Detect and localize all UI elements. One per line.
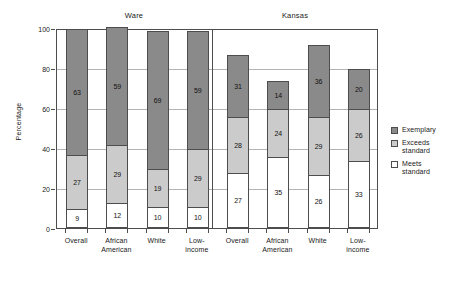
- y-axis-tick-mark: [51, 189, 55, 190]
- bar-segment: 10: [187, 207, 209, 228]
- x-axis-tick-mark: [87, 229, 88, 233]
- bar-value-label: 26: [315, 198, 323, 205]
- x-axis-tick-mark: [347, 229, 348, 233]
- y-axis-tick-label: 40: [24, 146, 50, 153]
- y-axis-tick-mark: [51, 229, 55, 230]
- plot-area: 6327959291269191059291031282714243536292…: [56, 29, 378, 229]
- bar-value-label: 12: [113, 212, 121, 219]
- bar-value-label: 19: [154, 185, 162, 192]
- bar-stack: 142435: [267, 81, 289, 228]
- bar-stack: 202633: [348, 69, 370, 228]
- bar-value-label: 29: [113, 171, 121, 178]
- y-axis-tick-label: 20: [24, 186, 50, 193]
- bar-segment: 29: [308, 117, 330, 176]
- x-axis-tick-mark: [248, 229, 249, 233]
- bar-segment: 19: [147, 169, 169, 208]
- x-axis-category-line2: income: [169, 245, 225, 254]
- bar-value-label: 63: [73, 89, 81, 96]
- y-axis-tick-mark: [51, 149, 55, 150]
- bar-value-label: 29: [315, 143, 323, 150]
- y-axis-tick-label: 60: [24, 106, 50, 113]
- x-axis-tick-mark: [208, 229, 209, 233]
- bar-segment: 69: [147, 31, 169, 170]
- x-axis-tick-mark: [65, 229, 66, 233]
- bar-value-label: 20: [355, 86, 363, 93]
- bar-segment: 31: [227, 55, 249, 118]
- x-axis-category-line2: income: [330, 245, 386, 254]
- legend-label-meets-line1: Meets: [402, 160, 422, 167]
- bar-value-label: 31: [234, 83, 242, 90]
- bar-value-label: 27: [73, 179, 81, 186]
- bar-segment: 33: [348, 161, 370, 228]
- bar-value-label: 33: [355, 191, 363, 198]
- x-axis-tick-mark: [369, 229, 370, 233]
- y-axis-ticks: 020406080100: [20, 0, 50, 283]
- bar-value-label: 69: [154, 97, 162, 104]
- bar-segment: 10: [147, 207, 169, 228]
- legend-label-meets-line2: standard: [402, 168, 430, 175]
- bar-segment: 14: [267, 81, 289, 110]
- bar-value-label: 59: [194, 87, 202, 94]
- bar-value-label: 27: [234, 197, 242, 204]
- bar-segment: 26: [308, 175, 330, 228]
- y-axis-tick-mark: [51, 109, 55, 110]
- bar-segment: 9: [66, 209, 88, 228]
- bar-stack: 312827: [227, 55, 249, 228]
- bar-segment: 27: [66, 155, 88, 210]
- bar-segment: 36: [308, 45, 330, 118]
- x-axis-tick-mark: [307, 229, 308, 233]
- x-axis-tick-mark: [186, 229, 187, 233]
- legend-label-exceeds-line1: Exceeds: [402, 139, 430, 146]
- bar-value-label: 59: [113, 83, 121, 90]
- legend-item-meets-standard: Meets standard: [391, 160, 455, 177]
- y-axis-tick-mark: [51, 69, 55, 70]
- legend-label-meets-standard: Meets standard: [402, 160, 430, 177]
- x-axis-category-line2: American: [88, 245, 144, 254]
- bar-value-label: 14: [274, 92, 282, 99]
- legend-swatch-meets-icon: [391, 161, 398, 168]
- panel-title-kansas: Kansas: [212, 11, 378, 20]
- stacked-bar-chart: Ware Kansas Percentage 020406080100 6327…: [0, 0, 456, 283]
- x-axis-tick-mark: [226, 229, 227, 233]
- x-axis-category-label: Low-income: [330, 236, 386, 254]
- bar-segment: 27: [227, 173, 249, 228]
- legend-item-exceeds-standard: Exceeds standard: [391, 139, 455, 156]
- bar-segment: 63: [66, 29, 88, 156]
- bar-segment: 24: [267, 109, 289, 158]
- legend-label-exceeds-standard: Exceeds standard: [402, 139, 430, 156]
- panel-divider: [212, 30, 213, 228]
- bar-stack: 362926: [308, 45, 330, 228]
- bar-segment: 20: [348, 69, 370, 110]
- panel-title-ware: Ware: [56, 11, 212, 20]
- bar-value-label: 36: [315, 78, 323, 85]
- bar-segment: 59: [187, 31, 209, 150]
- x-axis-tick-mark: [288, 229, 289, 233]
- bar-segment: 29: [187, 149, 209, 208]
- bar-value-label: 28: [234, 142, 242, 149]
- bar-value-label: 24: [274, 130, 282, 137]
- bar-segment: 26: [348, 109, 370, 162]
- bar-value-label: 10: [154, 214, 162, 221]
- bar-segment: 12: [106, 203, 128, 228]
- legend-swatch-exceeds-icon: [391, 140, 398, 147]
- bar-segment: 28: [227, 117, 249, 174]
- x-axis-tick-mark: [105, 229, 106, 233]
- x-axis-tick-mark: [168, 229, 169, 233]
- x-axis-tick-mark: [146, 229, 147, 233]
- bar-segment: 35: [267, 157, 289, 228]
- bar-value-label: 9: [75, 215, 79, 222]
- x-axis-tick-mark: [127, 229, 128, 233]
- bar-value-label: 35: [274, 189, 282, 196]
- x-axis-category-line1: Low-: [330, 236, 386, 245]
- legend: Exemplary Exceeds standard Meets standar…: [391, 126, 455, 181]
- legend-label-exemplary: Exemplary: [402, 126, 436, 135]
- x-axis-tick-mark: [329, 229, 330, 233]
- y-axis-tick-mark: [51, 29, 55, 30]
- bar-stack: 592910: [187, 31, 209, 228]
- bar-segment: 59: [106, 27, 128, 146]
- y-axis-tick-label: 100: [24, 26, 50, 33]
- bar-segment: 29: [106, 145, 128, 204]
- bar-stack: 63279: [66, 29, 88, 228]
- bar-value-label: 29: [194, 175, 202, 182]
- y-axis-tick-label: 80: [24, 66, 50, 73]
